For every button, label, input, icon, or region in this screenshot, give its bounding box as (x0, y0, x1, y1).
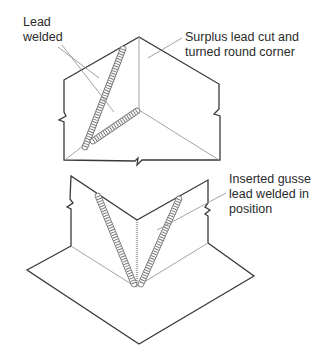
leader-lead-welded-2 (62, 45, 114, 112)
label-surplus-lead-line-2: turned round corner (185, 45, 299, 60)
lower-weld-bead-left (98, 196, 134, 284)
lower-corner-figure (27, 176, 254, 344)
upper-inner-right-line (139, 110, 219, 160)
leader-lead-welded-1 (58, 47, 99, 78)
label-surplus-lead: Surplus lead cut and turned round corner (185, 30, 299, 60)
lower-weld-bead-right (141, 199, 179, 284)
label-inserted-gusset-line-2: lead welded in (229, 187, 311, 202)
lower-base-outline (27, 243, 254, 344)
lower-wall-outline (67, 176, 210, 246)
label-surplus-lead-line-1: Surplus lead cut and (185, 30, 299, 45)
leader-inserted-gusset (157, 193, 226, 230)
label-inserted-gusset-line-1: Inserted gusset (229, 172, 311, 187)
label-inserted-gusset: Inserted gusset lead welded in position (229, 172, 311, 217)
label-inserted-gusset-line-3: position (229, 202, 311, 217)
label-lead-welded-line-1: Lead (23, 15, 63, 30)
label-lead-welded: Lead welded (23, 15, 63, 45)
leader-surplus-lead (148, 38, 182, 58)
label-lead-welded-line-2: welded (23, 30, 63, 45)
